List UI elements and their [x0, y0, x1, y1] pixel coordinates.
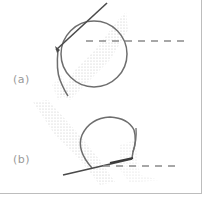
panel-b-right-stipple — [120, 140, 160, 183]
panel-a-label: (a) — [13, 73, 30, 86]
diagram-canvas — [0, 0, 209, 200]
panel-b-diagram — [33, 100, 180, 185]
panel-b-label: (b) — [13, 153, 30, 166]
panel-a-diagram — [52, 3, 184, 100]
panel-a-needle — [56, 3, 107, 50]
